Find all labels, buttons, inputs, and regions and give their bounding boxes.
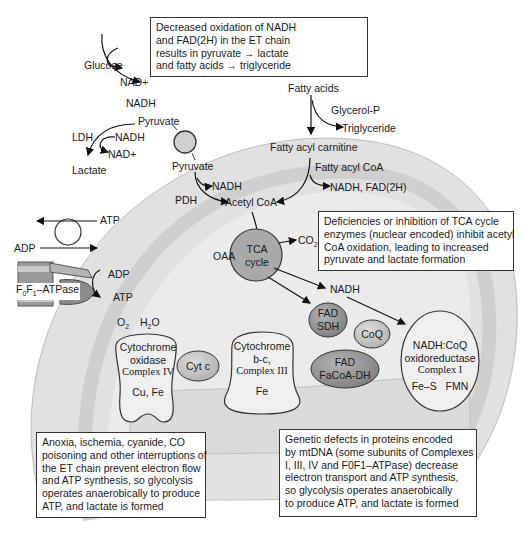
fad-facoa-dh-line: FAD (311, 356, 379, 369)
complex-i-line: Fe–S FMN (401, 380, 479, 393)
atpase-atp-label: ATP (113, 291, 133, 303)
nadh-label: NADH (126, 97, 156, 109)
cyt-c-text: Cyt c (177, 360, 219, 373)
callout-line: so glycolysis operates anaerobically (285, 484, 471, 497)
complex-iii-line: Fe (226, 385, 298, 398)
fatty-acyl-carnitine-label: Fatty acyl carnitine (270, 141, 358, 153)
callout-line: and ATP synthesis, so glycolysis (42, 474, 200, 487)
fad-sdh-line: SDH (309, 320, 347, 333)
complex-iv-line: Cu, Fe (112, 386, 184, 399)
callout-line: Deficiencies or inhibition of TCA cycle (324, 215, 508, 228)
complex-iii-line: Cytochrome (226, 340, 298, 353)
complex-iv-line: oxidase (112, 354, 184, 367)
complex-i-text: NADH:CoQ oxidoreductase Complex I Fe–S F… (401, 339, 479, 392)
fad-sdh-text: FAD SDH (309, 307, 347, 332)
callout-line: pyruvate and lactate formation (324, 253, 508, 266)
fatty-acids-label: Fatty acids (288, 82, 339, 94)
atp-out-label: ATP (100, 214, 120, 226)
lactate-label: Lactate (72, 164, 106, 176)
callout-line: and fatty acids → triglyceride (156, 59, 362, 72)
tca-cycle-circle (230, 229, 282, 281)
callout-line: Decreased oxidation of NADH (156, 21, 362, 34)
fad-facoa-dh-text: FAD FaCoA-DH (311, 356, 379, 381)
complex-iv-line: Complex IV (112, 366, 184, 379)
glycerol-p-label: Glycerol-P (331, 104, 380, 116)
callout-line: I, III, IV and F0F1–ATPase) decrease (285, 459, 471, 472)
pyruvate-label: Pyruvate (138, 115, 179, 127)
adp-in-label: ADP (14, 242, 36, 254)
tca-label-line1: TCA (242, 243, 272, 255)
pyruvate-inside-label: Pyruvate (172, 160, 213, 172)
callout-line: by mtDNA (some subunits of Complexes (285, 446, 471, 459)
tca-nadh-label: NADH (330, 283, 360, 295)
callout-line: ATP, and lactate is formed (42, 500, 200, 513)
fad-facoa-dh-line: FaCoA-DH (311, 369, 379, 382)
atpase-label: F0F1–ATPase (15, 283, 80, 300)
pdh-label: PDH (175, 194, 197, 206)
complex-iii-line: b-c, (226, 353, 298, 366)
callout-genetic-defects: Genetic defects in proteins encoded by m… (279, 429, 477, 517)
triglyceride-label: Triglyceride (342, 122, 396, 134)
adp-atp-translocase (55, 219, 81, 245)
ldh-nadh-label: NADH (115, 131, 145, 143)
callout-line: poisoning and other interruptions of (42, 449, 200, 462)
pyruvate-transporter (174, 131, 196, 153)
pdh-nadh-label: NADH (212, 180, 242, 192)
callout-line: to produce ATP, and lactate is formed (285, 497, 471, 510)
co2-label: CO2 (298, 234, 318, 251)
callout-line: operates anaerobically to produce (42, 487, 200, 500)
nadh-fad2h-label: NADH, FAD(2H) (330, 181, 406, 193)
glucose-label: Glucose (84, 59, 123, 71)
callout-line: and FAD(2H) in the ET chain (156, 34, 362, 47)
callout-decreased-oxidation: Decreased oxidation of NADH and FAD(2H) … (150, 17, 368, 77)
h2o-label: H2O (140, 316, 160, 333)
coq-text: CoQ (354, 328, 390, 341)
complex-i-line: Complex I (401, 364, 479, 377)
callout-line: Genetic defects in proteins encoded (285, 433, 471, 446)
ldh-nad-plus-label: NAD+ (108, 148, 136, 160)
complex-i-line: NADH:CoQ (401, 339, 479, 352)
acetyl-coa-label: Acetyl CoA (225, 196, 277, 208)
oaa-label: OAA (213, 250, 235, 262)
complex-iv-text: Cytochrome oxidase Complex IV Cu, Fe (112, 341, 184, 398)
fatty-acyl-coa-label: Fatty acyl CoA (315, 161, 383, 173)
complex-iii-text: Cytochrome b-c, Complex III Fe (226, 340, 298, 397)
callout-line: electron transport and ATP synthesis, (285, 471, 471, 484)
o2-label: O2 (117, 316, 129, 333)
callout-line: the ET chain prevent electron flow (42, 462, 200, 475)
callout-line: results in pyruvate → lactate (156, 47, 362, 60)
atpase-adp-label: ADP (108, 268, 130, 280)
tca-label-line2: cycle (240, 256, 274, 268)
callout-tca-deficiency: Deficiencies or inhibition of TCA cycle … (318, 211, 514, 271)
ldh-label: LDH (72, 131, 93, 143)
nad-plus-label: NAD+ (120, 76, 148, 88)
callout-anoxia: Anoxia, ischemia, cyanide, CO poisoning … (36, 432, 206, 518)
callout-line: enzymes (nuclear encoded) inhibit acetyl (324, 228, 508, 241)
callout-line: Anoxia, ischemia, cyanide, CO (42, 436, 200, 449)
callout-line: CoA oxidation, leading to increased (324, 241, 508, 254)
complex-iv-line: Cytochrome (112, 341, 184, 354)
complex-i-line: oxidoreductase (401, 352, 479, 365)
fad-sdh-line: FAD (309, 307, 347, 320)
complex-iii-line: Complex III (226, 365, 298, 378)
